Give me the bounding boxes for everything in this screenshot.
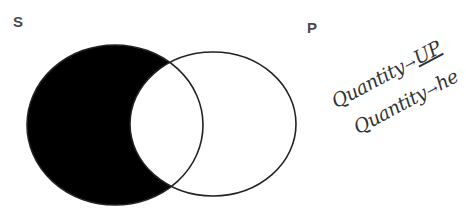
handwritten-annotation: Quantity→UP Quantity→he [332, 28, 466, 138]
set-s-shaded-region [27, 45, 203, 205]
set-p-circle [130, 52, 296, 196]
set-label-s: S [13, 14, 23, 29]
set-label-p: P [307, 20, 317, 35]
